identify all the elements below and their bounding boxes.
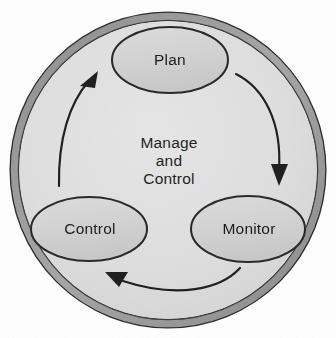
diagram-canvas: Manage and Control Plan Monitor Control: [0, 0, 336, 338]
center-text-line-1: Manage: [140, 134, 197, 151]
center-text-line-3: Control: [143, 170, 194, 187]
node-control-label: Control: [64, 220, 115, 237]
cycle-diagram: Manage and Control Plan Monitor Control: [0, 0, 336, 338]
center-text-line-2: and: [156, 152, 182, 169]
node-monitor[interactable]: Monitor: [191, 196, 305, 262]
node-plan[interactable]: Plan: [112, 27, 228, 93]
node-plan-label: Plan: [154, 51, 186, 68]
node-monitor-label: Monitor: [222, 220, 275, 237]
node-control[interactable]: Control: [31, 197, 147, 261]
